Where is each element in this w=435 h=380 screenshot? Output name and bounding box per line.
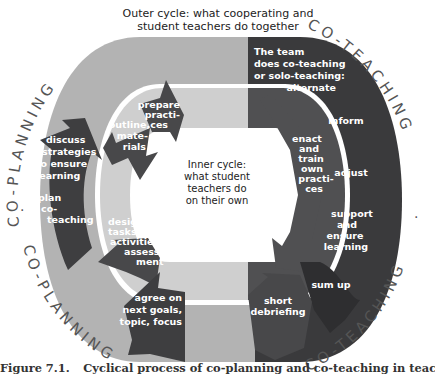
svg-text:alternate: alternate	[287, 82, 337, 93]
svg-text:adjust: adjust	[334, 167, 368, 178]
svg-text:strategies: strategies	[42, 146, 97, 157]
svg-text:ment: ment	[136, 256, 164, 267]
svg-text:or solo-teaching:: or solo-teaching:	[254, 70, 345, 81]
svg-text:teachers do: teachers do	[187, 183, 246, 194]
svg-text:on their own: on their own	[186, 195, 249, 206]
co-planning-co-teaching-diagram: Outer cycle: what cooperating and studen…	[0, 0, 435, 380]
svg-text:to ensure: to ensure	[36, 158, 87, 169]
svg-text:teaching: teaching	[47, 214, 94, 225]
svg-text:debriefing: debriefing	[250, 306, 305, 317]
figure-caption-text: Cyclical process of co-planning and co-t…	[83, 361, 435, 375]
svg-text:agree on: agree on	[135, 292, 183, 303]
svg-text:co-: co-	[41, 203, 57, 214]
outer-cycle-title-line2: student teachers do together	[137, 20, 299, 33]
figure-caption: Figure 7.1. Cyclical process of co-plann…	[0, 361, 435, 375]
svg-text:ces: ces	[150, 119, 168, 130]
svg-text:topic, focus: topic, focus	[120, 316, 183, 327]
figure-number: Figure 7.1.	[0, 361, 70, 375]
svg-text:support: support	[331, 208, 373, 219]
svg-text:plan: plan	[38, 192, 61, 203]
arc-dot-right: ·	[414, 209, 418, 225]
svg-text:sum up: sum up	[311, 279, 350, 290]
outer-cycle-title-line1: Outer cycle: what cooperating and	[123, 7, 314, 20]
svg-text:discuss: discuss	[46, 134, 86, 145]
svg-text:ensure: ensure	[327, 230, 364, 241]
svg-text:does co-teaching: does co-teaching	[254, 58, 345, 69]
svg-text:learning: learning	[324, 241, 368, 252]
svg-text:inform: inform	[328, 115, 363, 126]
svg-text:next goals,: next goals,	[123, 304, 182, 315]
svg-text:Inner cycle:: Inner cycle:	[188, 159, 246, 170]
svg-text:ces: ces	[305, 183, 323, 194]
svg-text:and: and	[337, 219, 357, 230]
svg-text:short: short	[264, 295, 293, 306]
svg-text:learning: learning	[36, 170, 80, 181]
svg-text:outline,: outline,	[109, 119, 150, 130]
inner-cycle-text: Inner cycle: what student teachers do on…	[184, 159, 250, 206]
svg-text:The team: The team	[254, 46, 304, 57]
svg-text:what student: what student	[184, 171, 250, 182]
svg-text:mate-: mate-	[117, 130, 148, 141]
arc-dot-left: ·	[20, 202, 24, 218]
svg-text:rials: rials	[123, 141, 147, 152]
